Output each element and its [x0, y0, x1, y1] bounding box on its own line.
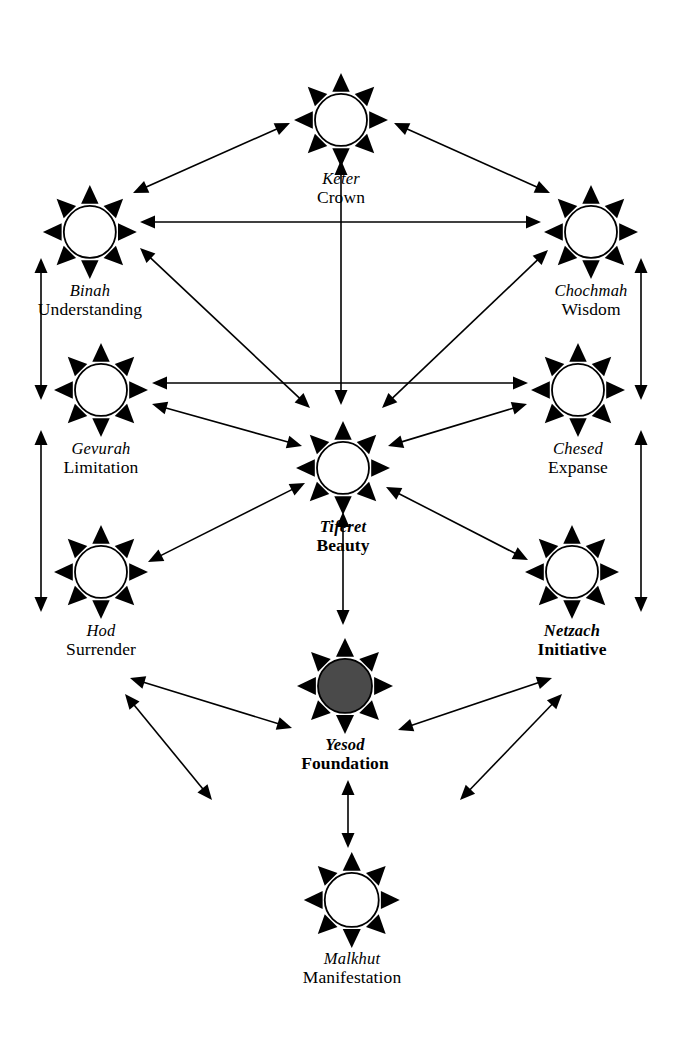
- star-ray-4: [81, 260, 98, 279]
- star-ray-6: [297, 677, 316, 695]
- star-ray-6: [54, 563, 73, 580]
- sefirah-circle: [325, 873, 379, 927]
- sefirah-labels: NetzachInitiative: [537, 622, 606, 660]
- sefirah-english-name: Foundation: [301, 754, 389, 774]
- star-ray-2: [129, 381, 148, 398]
- sefirah-keter[interactable]: KeterCrown: [293, 72, 389, 208]
- node-layer: KeterCrownBinahUnderstandingChochmahWisd…: [0, 0, 680, 1058]
- sefirah-circle: [75, 364, 127, 416]
- star-ray-4: [569, 418, 586, 437]
- star-ray-2: [369, 111, 388, 128]
- sefirah-english-name: Manifestation: [303, 968, 402, 988]
- sefirah-english-name: Crown: [317, 188, 365, 208]
- star-ray-2: [374, 677, 393, 695]
- sefirah-hebrew-name: Gevurah: [64, 440, 139, 458]
- sefirah-netzach[interactable]: NetzachInitiative: [524, 524, 620, 660]
- star-ray-4: [336, 715, 354, 734]
- sefirah-hebrew-name: Binah: [38, 282, 142, 300]
- star-ray-2: [619, 223, 638, 240]
- star-ray-6: [43, 223, 62, 240]
- star-ray-4: [92, 418, 109, 437]
- sefirah-circle: [552, 364, 604, 416]
- star-ray-0: [81, 185, 98, 204]
- star-ray-2: [371, 459, 390, 476]
- sefirah-chochmah[interactable]: ChochmahWisdom: [543, 184, 639, 320]
- star-ray-4: [582, 260, 599, 279]
- star-ray-6: [304, 891, 323, 909]
- sefirah-hebrew-name: Keter: [317, 170, 365, 188]
- sefirah-labels: ChesedExpanse: [548, 440, 608, 478]
- sefirah-english-name: Beauty: [316, 536, 369, 556]
- sefirah-circle: [317, 442, 369, 494]
- sefirah-circle-filled: [318, 659, 372, 713]
- sefirah-hebrew-name: Yesod: [301, 736, 389, 754]
- star-ray-4: [334, 496, 351, 515]
- sefirah-hod[interactable]: HodSurrender: [53, 524, 149, 660]
- sefirah-hebrew-name: Chesed: [548, 440, 608, 458]
- sefirah-hebrew-name: Hod: [66, 622, 136, 640]
- sefirah-malkhut[interactable]: MalkhutManifestation: [303, 852, 402, 988]
- sefirah-english-name: Wisdom: [554, 300, 627, 320]
- star-ray-2: [381, 891, 400, 909]
- star-ray-0: [563, 525, 580, 544]
- star-ray-0: [334, 421, 351, 440]
- star-ray-6: [531, 381, 550, 398]
- sefirah-labels: MalkhutManifestation: [303, 950, 402, 988]
- sefirah-english-name: Limitation: [64, 458, 139, 478]
- star-ray-4: [92, 600, 109, 619]
- sefirah-hebrew-name: Chochmah: [554, 282, 627, 300]
- sefirah-labels: YesodFoundation: [301, 736, 389, 774]
- star-ray-2: [118, 223, 137, 240]
- sefirah-labels: ChochmahWisdom: [554, 282, 627, 320]
- sefirah-circle: [546, 546, 598, 598]
- sefirah-english-name: Initiative: [537, 640, 606, 660]
- sefirah-labels: TiferetBeauty: [316, 518, 369, 556]
- star-ray-2: [606, 381, 625, 398]
- sefirah-star-icon: [293, 72, 389, 168]
- sefirah-english-name: Understanding: [38, 300, 142, 320]
- star-ray-6: [54, 381, 73, 398]
- sefirah-labels: BinahUnderstanding: [38, 282, 142, 320]
- star-ray-4: [343, 929, 361, 948]
- sefirah-tiferet[interactable]: TiferetBeauty: [295, 420, 391, 556]
- star-ray-6: [294, 111, 313, 128]
- star-ray-0: [332, 73, 349, 92]
- sefirah-star-icon: [524, 524, 620, 620]
- sefirah-star-icon: [530, 342, 626, 438]
- sefirah-circle: [565, 206, 617, 258]
- sefirah-circle: [64, 206, 116, 258]
- sefirah-yesod[interactable]: YesodFoundation: [297, 638, 393, 774]
- star-ray-4: [563, 600, 580, 619]
- star-ray-2: [129, 563, 148, 580]
- sefirah-star-icon: [53, 342, 149, 438]
- star-ray-0: [569, 343, 586, 362]
- star-ray-0: [336, 638, 354, 657]
- star-ray-2: [600, 563, 619, 580]
- sefirah-circle: [315, 94, 367, 146]
- sefirah-labels: KeterCrown: [317, 170, 365, 208]
- sefirah-star-icon: [543, 184, 639, 280]
- sefirah-circle: [75, 546, 127, 598]
- sefirah-star-icon: [53, 524, 149, 620]
- star-ray-0: [92, 343, 109, 362]
- sefirah-gevurah[interactable]: GevurahLimitation: [53, 342, 149, 478]
- star-ray-6: [544, 223, 563, 240]
- star-ray-0: [582, 185, 599, 204]
- sefirah-labels: GevurahLimitation: [64, 440, 139, 478]
- tree-of-life-diagram: KeterCrownBinahUnderstandingChochmahWisd…: [0, 0, 680, 1058]
- sefirah-chesed[interactable]: ChesedExpanse: [530, 342, 626, 478]
- star-ray-6: [296, 459, 315, 476]
- sefirah-hebrew-name: Tiferet: [316, 518, 369, 536]
- sefirah-binah[interactable]: BinahUnderstanding: [38, 184, 142, 320]
- sefirah-star-icon: [297, 638, 393, 734]
- star-ray-6: [525, 563, 544, 580]
- sefirah-english-name: Expanse: [548, 458, 608, 478]
- sefirah-hebrew-name: Netzach: [537, 622, 606, 640]
- sefirah-hebrew-name: Malkhut: [303, 950, 402, 968]
- star-ray-4: [332, 148, 349, 167]
- star-ray-0: [343, 852, 361, 871]
- star-ray-0: [92, 525, 109, 544]
- sefirah-english-name: Surrender: [66, 640, 136, 660]
- sefirah-labels: HodSurrender: [66, 622, 136, 660]
- sefirah-star-icon: [295, 420, 391, 516]
